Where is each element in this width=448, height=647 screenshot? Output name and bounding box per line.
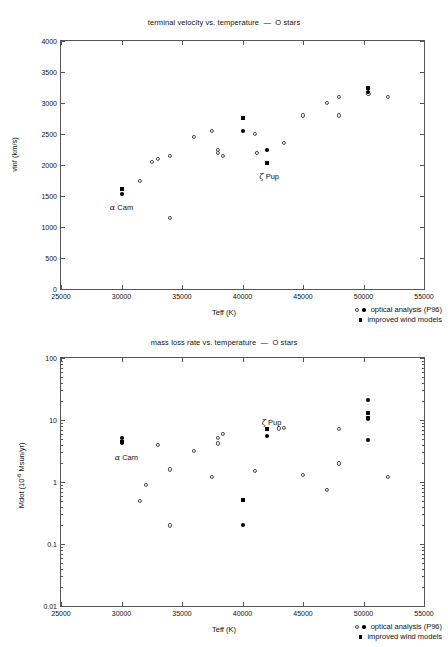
data-point bbox=[192, 449, 196, 453]
y-tick-minor bbox=[61, 569, 63, 570]
x-tick bbox=[243, 285, 244, 289]
y-tick-minor bbox=[61, 563, 63, 564]
y-tick-minor bbox=[422, 525, 424, 526]
x-tick-top bbox=[424, 358, 425, 362]
data-point bbox=[168, 216, 172, 220]
y-tick-minor bbox=[422, 361, 424, 362]
y-tick-minor bbox=[61, 554, 63, 555]
x-tick-label: 50000 bbox=[354, 610, 373, 617]
y-tick-minor bbox=[422, 569, 424, 570]
x-tick bbox=[122, 285, 123, 289]
x-tick bbox=[182, 602, 183, 606]
y-tick-minor bbox=[61, 426, 63, 427]
y-tick-minor bbox=[422, 558, 424, 559]
y-tick-minor bbox=[422, 554, 424, 555]
plot-area-mass-loss-rate: 250003000035000400004500050000550000.010… bbox=[60, 357, 425, 607]
data-point bbox=[120, 192, 124, 196]
data-point bbox=[265, 161, 269, 165]
data-point bbox=[241, 129, 245, 133]
y-tick-minor bbox=[422, 401, 424, 402]
y-tick-minor bbox=[422, 377, 424, 378]
y-tick-minor bbox=[61, 439, 63, 440]
y-tick bbox=[61, 258, 65, 259]
y-tick-minor bbox=[422, 368, 424, 369]
y-tick bbox=[420, 72, 424, 73]
point-annotation: ζ Pup bbox=[262, 418, 282, 427]
data-point bbox=[366, 398, 370, 402]
y-tick bbox=[420, 41, 424, 42]
point-annotation: ζ Pup bbox=[259, 172, 279, 181]
data-point bbox=[120, 187, 124, 191]
y-tick-label: 1000 bbox=[41, 224, 57, 231]
data-point bbox=[192, 135, 196, 139]
x-tick bbox=[303, 285, 304, 289]
y-tick bbox=[420, 258, 424, 259]
y-axis-label-bottom: Mdot (10-6 Msun/yr) bbox=[16, 420, 27, 530]
data-point bbox=[337, 461, 341, 465]
y-tick-minor bbox=[61, 383, 63, 384]
x-tick-top bbox=[182, 41, 183, 45]
y-tick bbox=[61, 134, 65, 135]
y-axis-label-top: vinf (km/s) bbox=[10, 115, 19, 195]
y-tick-label: 100 bbox=[45, 355, 57, 362]
y-tick-minor bbox=[61, 496, 63, 497]
legend-label: optical analysis (P96) bbox=[371, 305, 442, 315]
data-point bbox=[138, 499, 142, 503]
data-point bbox=[325, 488, 329, 492]
x-tick-label: 30000 bbox=[112, 610, 131, 617]
y-tick bbox=[420, 358, 424, 359]
y-tick bbox=[420, 482, 424, 483]
y-tick bbox=[61, 103, 65, 104]
data-point bbox=[241, 116, 245, 120]
y-tick-minor bbox=[422, 587, 424, 588]
data-point bbox=[265, 434, 269, 438]
y-tick-minor bbox=[422, 372, 424, 373]
x-tick-label: 40000 bbox=[233, 293, 252, 300]
y-tick bbox=[420, 227, 424, 228]
y-tick-label: 2500 bbox=[41, 131, 57, 138]
y-tick bbox=[420, 165, 424, 166]
y-tick-label: 3500 bbox=[41, 69, 57, 76]
y-tick-minor bbox=[422, 434, 424, 435]
y-tick-minor bbox=[61, 452, 63, 453]
y-tick-label: 1 bbox=[53, 479, 57, 486]
y-tick-minor bbox=[422, 563, 424, 564]
data-point bbox=[265, 427, 269, 431]
plot-area-terminal-velocity: 2500030000350004000045000500005500005001… bbox=[60, 40, 425, 290]
legend-bottom: optical analysis (P96)improved wind mode… bbox=[338, 622, 442, 642]
y-tick-minor bbox=[422, 439, 424, 440]
y-tick-minor bbox=[422, 430, 424, 431]
y-tick-minor bbox=[61, 445, 63, 446]
y-tick-minor bbox=[422, 426, 424, 427]
x-tick-label: 45000 bbox=[293, 610, 312, 617]
y-tick bbox=[61, 227, 65, 228]
data-point bbox=[337, 95, 341, 99]
x-tick-top bbox=[243, 41, 244, 45]
legend-marker-filled-circle-icon bbox=[362, 308, 366, 312]
y-tick bbox=[420, 289, 424, 290]
y-tick-minor bbox=[61, 390, 63, 391]
y-tick bbox=[61, 41, 65, 42]
legend-marker-open-circle-icon bbox=[355, 308, 359, 312]
y-tick-minor bbox=[422, 547, 424, 548]
x-tick bbox=[364, 285, 365, 289]
y-tick bbox=[420, 606, 424, 607]
x-tick bbox=[303, 602, 304, 606]
y-tick-minor bbox=[61, 377, 63, 378]
y-tick bbox=[61, 606, 65, 607]
data-point bbox=[150, 160, 154, 164]
y-tick-minor bbox=[422, 364, 424, 365]
data-point bbox=[216, 436, 220, 440]
legend-entry: improved wind models bbox=[338, 632, 442, 642]
x-tick-top bbox=[364, 41, 365, 45]
y-tick bbox=[61, 72, 65, 73]
legend-top: optical analysis (P96)improved wind mode… bbox=[338, 305, 442, 325]
y-tick-label: 2000 bbox=[41, 162, 57, 169]
y-tick-minor bbox=[422, 485, 424, 486]
x-tick-top bbox=[182, 358, 183, 362]
y-tick bbox=[420, 196, 424, 197]
legend-marker-group bbox=[342, 625, 366, 629]
x-tick-top bbox=[243, 358, 244, 362]
y-tick-minor bbox=[61, 401, 63, 402]
y-tick-minor bbox=[422, 492, 424, 493]
